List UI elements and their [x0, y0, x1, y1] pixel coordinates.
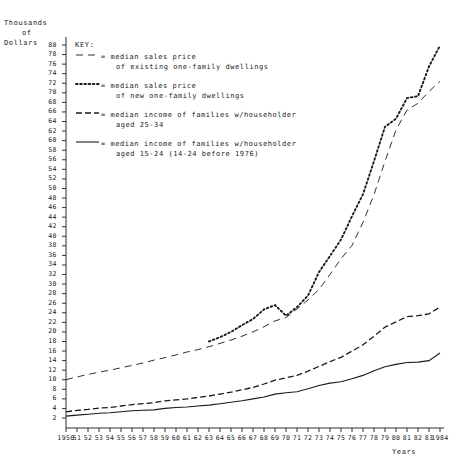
y-tick-label-38: 38	[35, 242, 57, 249]
y-tick-label-70: 70	[35, 89, 57, 96]
y-tick-label-68: 68	[35, 99, 57, 106]
y-tick-label-24: 24	[35, 309, 57, 316]
y-tick-label-30: 30	[35, 281, 57, 288]
y-tick-label-52: 52	[35, 175, 57, 182]
y-tick-label-28: 28	[35, 290, 57, 297]
y-tick-label-2: 2	[35, 415, 57, 422]
y-tick-label-58: 58	[35, 147, 57, 154]
x-tick-label-1984: 1984	[428, 435, 451, 442]
y-tick-label-20: 20	[35, 328, 57, 335]
y-tick-label-36: 36	[35, 252, 57, 259]
y-tick-label-80: 80	[35, 42, 57, 49]
y-tick-label-4: 4	[35, 405, 57, 412]
y-tick-label-6: 6	[35, 395, 57, 402]
y-tick-label-66: 66	[35, 108, 57, 115]
y-tick-label-18: 18	[35, 338, 57, 345]
y-tick-label-12: 12	[35, 367, 57, 374]
y-tick-marks	[62, 45, 66, 418]
y-tick-label-74: 74	[35, 70, 57, 77]
y-tick-label-64: 64	[35, 118, 57, 125]
y-tick-label-42: 42	[35, 223, 57, 230]
x-tick-marks	[66, 428, 440, 432]
legend-swatches	[76, 55, 99, 142]
y-tick-label-48: 48	[35, 195, 57, 202]
y-tick-label-10: 10	[35, 376, 57, 383]
y-tick-label-54: 54	[35, 166, 57, 173]
axis-lines	[66, 37, 444, 428]
y-tick-label-34: 34	[35, 261, 57, 268]
data-series-lines	[66, 46, 440, 417]
y-tick-label-8: 8	[35, 386, 57, 393]
chart-vector-layer	[0, 0, 451, 463]
y-tick-label-22: 22	[35, 319, 57, 326]
series-line-2	[66, 307, 440, 412]
y-tick-label-50: 50	[35, 185, 57, 192]
series-line-0	[66, 81, 440, 379]
y-tick-label-40: 40	[35, 233, 57, 240]
y-tick-label-32: 32	[35, 271, 57, 278]
y-tick-label-72: 72	[35, 80, 57, 87]
chart-canvas: Thousands of Dollars Years KEY: = median…	[0, 0, 451, 463]
series-line-1	[209, 46, 440, 342]
y-tick-label-16: 16	[35, 348, 57, 355]
y-tick-label-44: 44	[35, 214, 57, 221]
y-tick-label-62: 62	[35, 128, 57, 135]
series-line-3	[66, 353, 440, 416]
y-tick-label-76: 76	[35, 61, 57, 68]
y-tick-label-46: 46	[35, 204, 57, 211]
y-tick-label-26: 26	[35, 300, 57, 307]
y-tick-label-56: 56	[35, 156, 57, 163]
y-tick-label-60: 60	[35, 137, 57, 144]
y-tick-label-78: 78	[35, 51, 57, 58]
y-tick-label-14: 14	[35, 357, 57, 364]
